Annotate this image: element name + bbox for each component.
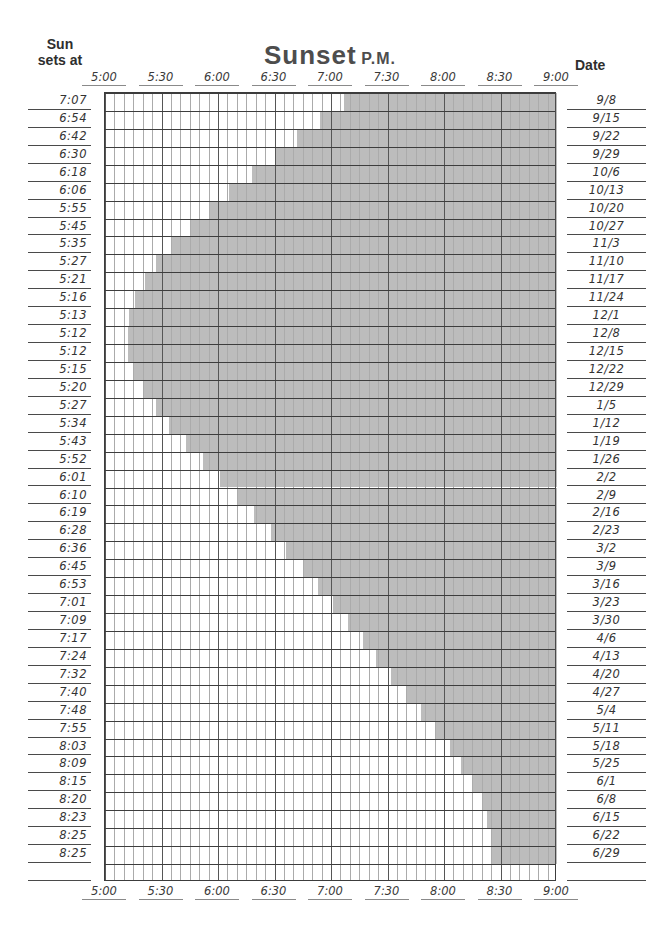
- time-tick-label: 5:30: [139, 70, 183, 86]
- date-label: 12/15: [567, 343, 646, 361]
- date-label: 12/8: [567, 325, 646, 343]
- sunset-time-label: 6:10: [28, 487, 91, 505]
- sunset-time-label: 6:42: [28, 128, 91, 146]
- sunset-time-label: 6:19: [28, 504, 91, 522]
- sunset-time-label: 7:40: [28, 684, 91, 702]
- date-label: 4/20: [567, 666, 646, 684]
- date-label: [567, 863, 646, 881]
- date-label: 5/11: [567, 720, 646, 738]
- left-header-line2: sets at: [28, 52, 92, 68]
- date-label: 9/22: [567, 128, 646, 146]
- sunset-time-label: 6:18: [28, 164, 91, 182]
- date-label: 11/3: [567, 235, 646, 253]
- time-tick-label: 8:00: [421, 884, 465, 900]
- sunset-time-label: 6:01: [28, 469, 91, 487]
- sunset-time-label: 8:15: [28, 773, 91, 791]
- sunset-time-label: 7:07: [28, 92, 91, 110]
- date-label: 2/16: [567, 504, 646, 522]
- sunset-time-label: 5:21: [28, 271, 91, 289]
- date-label: 4/13: [567, 648, 646, 666]
- left-column-header: Sun sets at: [28, 36, 92, 68]
- date-label: 1/19: [567, 433, 646, 451]
- time-tick-label: 8:30: [478, 70, 522, 86]
- sunset-time-label: 5:20: [28, 379, 91, 397]
- sunset-time-label: 5:27: [28, 253, 91, 271]
- date-label: 5/25: [567, 755, 646, 773]
- date-label: 12/22: [567, 361, 646, 379]
- sunset-time-label: 5:12: [28, 325, 91, 343]
- date-label: 5/18: [567, 738, 646, 756]
- time-tick-label: 7:00: [308, 884, 352, 900]
- date-label: 4/6: [567, 630, 646, 648]
- date-label: 9/29: [567, 146, 646, 164]
- date-label: 1/12: [567, 415, 646, 433]
- date-label: 10/20: [567, 200, 646, 218]
- sunset-time-label: 5:35: [28, 235, 91, 253]
- date-label: 5/4: [567, 702, 646, 720]
- sunset-time-label: 7:48: [28, 702, 91, 720]
- sunset-time-label: 5:13: [28, 307, 91, 325]
- sunset-time-label: 5:55: [28, 200, 91, 218]
- sunset-time-label: 5:16: [28, 289, 91, 307]
- date-label: 11/24: [567, 289, 646, 307]
- date-label: 11/17: [567, 271, 646, 289]
- time-tick-label: 8:30: [478, 884, 522, 900]
- date-label: 9/15: [567, 110, 646, 128]
- time-tick-label: 7:30: [365, 884, 409, 900]
- date-label: 6/15: [567, 809, 646, 827]
- sunset-time-label: 5:27: [28, 397, 91, 415]
- time-tick-label: 5:00: [82, 884, 126, 900]
- sunset-time-label: 6:30: [28, 146, 91, 164]
- sunset-time-label: 6:54: [28, 110, 91, 128]
- left-header-line1: Sun: [28, 36, 92, 52]
- sunset-time-label: 6:45: [28, 558, 91, 576]
- sunset-time-label: [28, 863, 91, 881]
- sunset-time-label: 6:06: [28, 182, 91, 200]
- sunset-time-label: 5:52: [28, 451, 91, 469]
- date-label: 3/9: [567, 558, 646, 576]
- date-label: 3/30: [567, 612, 646, 630]
- sunset-time-label: 7:01: [28, 594, 91, 612]
- sunset-time-label: 5:34: [28, 415, 91, 433]
- date-label: 11/10: [567, 253, 646, 271]
- sunset-time-label: 7:32: [28, 666, 91, 684]
- chart-grid: [104, 92, 556, 881]
- sunset-time-label: 7:55: [28, 720, 91, 738]
- date-label: 1/5: [567, 397, 646, 415]
- date-label: 9/8: [567, 92, 646, 110]
- time-tick-label: 6:30: [252, 70, 296, 86]
- date-label: 6/22: [567, 827, 646, 845]
- sunset-chart-page: Sun sets at Sunset P.M. Date 5:005:306:0…: [0, 0, 658, 945]
- time-tick-label: 6:00: [195, 70, 239, 86]
- date-label: 12/1: [567, 307, 646, 325]
- time-tick-label: 6:00: [195, 884, 239, 900]
- date-label: 4/27: [567, 684, 646, 702]
- chart-title-main: Sunset: [264, 40, 357, 70]
- time-tick-label: 8:00: [421, 70, 465, 86]
- sunset-time-label: 7:09: [28, 612, 91, 630]
- sunset-time-label: 7:24: [28, 648, 91, 666]
- sunset-time-label: 5:43: [28, 433, 91, 451]
- date-label: 6/8: [567, 791, 646, 809]
- sunset-time-label: 8:25: [28, 827, 91, 845]
- sunset-time-label: 7:17: [28, 630, 91, 648]
- sunset-time-label: 8:25: [28, 845, 91, 863]
- date-label: 12/29: [567, 379, 646, 397]
- sunset-time-label: 8:20: [28, 791, 91, 809]
- date-label: 1/26: [567, 451, 646, 469]
- sunset-time-label: 6:53: [28, 576, 91, 594]
- sunset-time-label: 6:28: [28, 522, 91, 540]
- date-label: 6/1: [567, 773, 646, 791]
- date-label: 6/29: [567, 845, 646, 863]
- date-label: 10/27: [567, 218, 646, 236]
- sunset-time-label: 8:23: [28, 809, 91, 827]
- date-label: 3/16: [567, 576, 646, 594]
- time-tick-label: 9:00: [534, 70, 578, 86]
- time-tick-label: 7:30: [365, 70, 409, 86]
- time-tick-label: 7:00: [308, 70, 352, 86]
- date-label: 10/6: [567, 164, 646, 182]
- date-label: 3/23: [567, 594, 646, 612]
- sunset-time-label: 5:45: [28, 218, 91, 236]
- chart-title: Sunset P.M.: [104, 40, 556, 71]
- sunset-time-label: 5:12: [28, 343, 91, 361]
